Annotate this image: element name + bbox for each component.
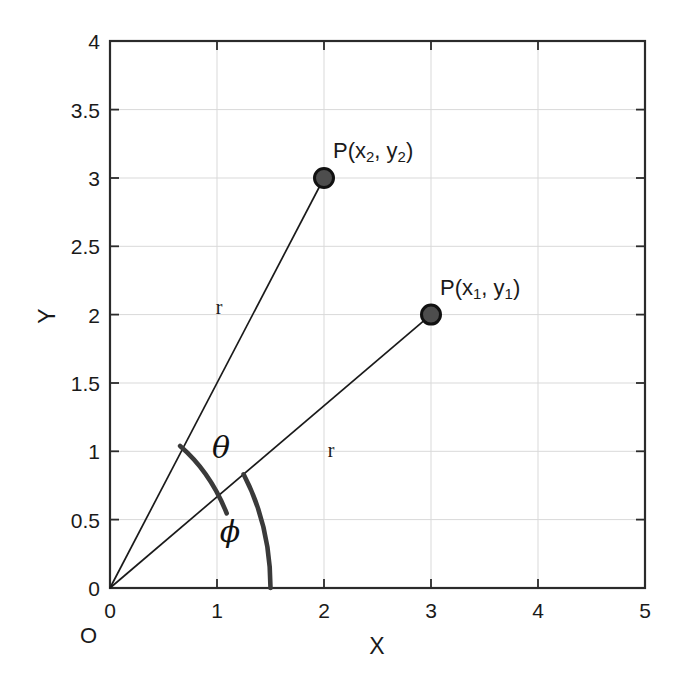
y-tick-label-4: 4 [70, 31, 100, 52]
x-tick-label-0: 0 [104, 600, 116, 621]
y-tick-label-2.5: 2.5 [45, 236, 100, 257]
x-axis-ticks-top [110, 41, 645, 50]
radius-label-r1: r [328, 440, 335, 460]
point-label-p1: P(x1, y1) [440, 277, 520, 299]
x-axis-title: X [369, 635, 384, 658]
x-tick-label-5: 5 [639, 600, 651, 621]
polar-coordinates-figure: 0 0.5 1 1.5 2 2.5 3 3.5 4 0 1 2 3 4 5 Y … [0, 0, 674, 689]
p2-suffix: ) [406, 138, 413, 163]
p2-mid: , y [374, 138, 397, 163]
p1-suffix: ) [513, 275, 520, 300]
x-tick-label-3: 3 [425, 600, 437, 621]
y-tick-label-0.5: 0.5 [45, 509, 100, 530]
p2-sub1: 2 [366, 148, 374, 165]
x-tick-label-4: 4 [532, 600, 544, 621]
p1-mid: , y [481, 275, 504, 300]
y-axis-title: Y [36, 308, 59, 323]
data-point-marker-p2 [315, 169, 334, 188]
p2-sub2: 2 [398, 148, 406, 165]
y-tick-label-0: 0 [70, 578, 100, 599]
p1-prefix: P(x [440, 275, 473, 300]
y-tick-label-3: 3 [70, 168, 100, 189]
y-tick-label-3.5: 3.5 [45, 99, 100, 120]
y-tick-label-1.5: 1.5 [45, 373, 100, 394]
point-label-p2: P(x2, y2) [333, 140, 413, 162]
theta-label: θ [212, 433, 230, 463]
phi-arc [244, 474, 271, 588]
origin-label: O [80, 625, 97, 647]
phi-label: ϕ [220, 517, 240, 547]
y-axis-ticks-right [636, 41, 645, 588]
x-tick-label-2: 2 [318, 600, 330, 621]
p1-sub2: 1 [505, 285, 513, 302]
p1-sub1: 1 [473, 285, 481, 302]
y-tick-label-1: 1 [70, 441, 100, 462]
y-tick-label-2: 2 [70, 304, 100, 325]
x-axis-ticks [110, 579, 645, 588]
y-axis-ticks [110, 41, 119, 588]
x-tick-label-1: 1 [211, 600, 223, 621]
plot-canvas [0, 0, 674, 689]
p2-prefix: P(x [333, 138, 366, 163]
radius-label-r2: r [216, 297, 223, 317]
data-point-marker-p1 [422, 305, 441, 324]
